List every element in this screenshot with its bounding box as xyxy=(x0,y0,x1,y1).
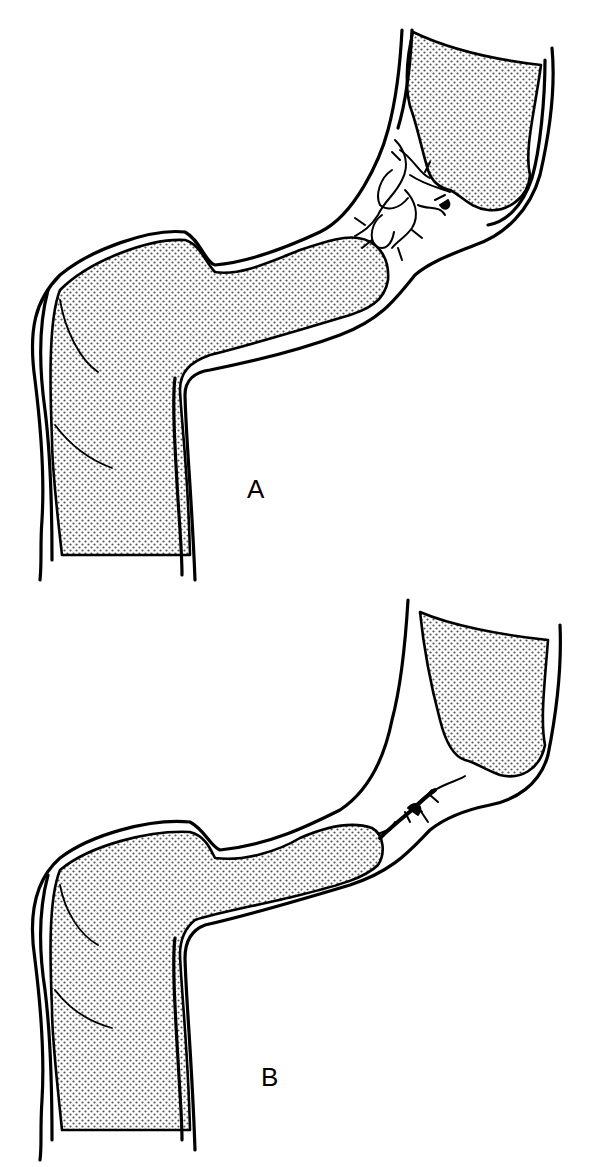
panel-b-lower-lumen xyxy=(50,825,382,1130)
panel-b-drawing xyxy=(32,600,560,1160)
panel-label-a: A xyxy=(247,474,264,505)
panel-label-b: B xyxy=(261,1062,278,1093)
panel-a-lower-lumen xyxy=(50,238,388,556)
diagram-canvas xyxy=(0,0,595,1167)
panel-b-compact-lesion xyxy=(378,776,465,838)
panel-b-upper-lumen xyxy=(420,612,548,776)
panel-a-drawing xyxy=(32,30,553,580)
